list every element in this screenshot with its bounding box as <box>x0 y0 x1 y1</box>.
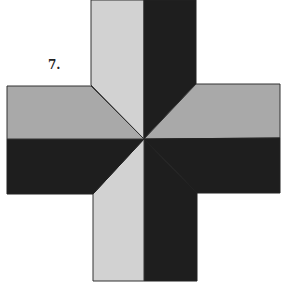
figure-canvas: 7. <box>0 0 281 284</box>
cross-pinwheel-diagram <box>0 0 281 284</box>
